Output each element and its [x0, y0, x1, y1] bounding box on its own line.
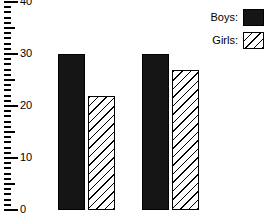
tick-mark [4, 188, 11, 190]
tick-mark [4, 209, 18, 211]
tick-mark [4, 100, 11, 102]
tick-mark [4, 6, 11, 8]
bar-boys-group1 [58, 54, 85, 210]
tick-mark [4, 95, 11, 97]
tick-mark [4, 1, 18, 3]
tick-mark [4, 79, 15, 81]
tick-mark [4, 199, 11, 201]
tick-mark [4, 162, 11, 164]
legend-label-boys: Boys: [210, 11, 238, 24]
y-axis-tick-label: 0 [20, 203, 26, 216]
tick-mark [4, 48, 11, 50]
y-axis-tick-label: 20 [20, 99, 32, 112]
tick-mark [4, 11, 11, 13]
legend-label-girls: Girls: [212, 34, 238, 47]
tick-mark [4, 157, 18, 159]
tick-mark [4, 105, 18, 107]
tick-mark [4, 17, 11, 19]
bar-chart: 010203040 Boys: Girls: [0, 0, 264, 223]
tick-mark [4, 141, 11, 143]
tick-mark [4, 89, 11, 91]
tick-mark [4, 147, 11, 149]
bar-girls-group1 [88, 96, 115, 210]
plot-area [40, 0, 200, 223]
tick-mark [4, 43, 11, 45]
y-axis-tick-label: 10 [20, 151, 32, 164]
chart-legend: Boys: Girls: [206, 8, 264, 54]
tick-mark [4, 173, 11, 175]
bar-boys-group2 [142, 54, 169, 210]
legend-item-boys: Boys: [206, 8, 264, 27]
tick-mark [4, 193, 11, 195]
tick-mark [4, 32, 11, 34]
tick-mark [4, 178, 11, 180]
tick-mark [4, 110, 11, 112]
solid-black-swatch [243, 9, 264, 26]
tick-mark [4, 63, 11, 65]
tick-mark [4, 84, 11, 86]
tick-mark [4, 37, 11, 39]
tick-mark [4, 27, 15, 29]
tick-mark [4, 22, 11, 24]
tick-mark [4, 69, 11, 71]
legend-item-girls: Girls: [206, 31, 264, 50]
tick-mark [4, 152, 11, 154]
tick-mark [4, 115, 11, 117]
y-axis-tick-label: 40 [20, 0, 32, 8]
tick-mark [4, 131, 15, 133]
bar-girls-group2 [172, 70, 199, 210]
tick-mark [4, 183, 15, 185]
tick-mark [4, 53, 18, 55]
tick-mark [4, 136, 11, 138]
tick-mark [4, 121, 11, 123]
tick-mark [4, 167, 11, 169]
hatched-swatch [243, 32, 264, 49]
y-axis-tick-label: 30 [20, 47, 32, 60]
y-axis: 010203040 [0, 0, 40, 223]
tick-mark [4, 126, 11, 128]
tick-mark [4, 58, 11, 60]
tick-mark [4, 74, 11, 76]
tick-mark [4, 204, 11, 206]
